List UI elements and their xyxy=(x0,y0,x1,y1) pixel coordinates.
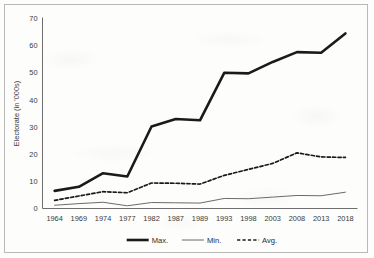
series-line-max xyxy=(55,33,346,190)
x-tick-label: 1989 xyxy=(192,214,208,223)
chart-series-group xyxy=(55,33,346,205)
chart-legend: Max.Min.Avg. xyxy=(127,236,277,245)
x-tick-label: 1998 xyxy=(240,214,256,223)
y-tick-label: 10 xyxy=(29,177,37,186)
series-line-min xyxy=(55,192,346,206)
x-tick-label: 1964 xyxy=(46,214,62,223)
y-axis: 010203040506070 xyxy=(29,14,42,213)
y-tick-label: 70 xyxy=(29,14,37,23)
legend-label-max[interactable]: Max. xyxy=(152,236,168,245)
chart-frame: 010203040506070 196419691974197719821987… xyxy=(4,4,368,253)
x-tick-label: 1982 xyxy=(143,214,159,223)
x-tick-label: 1977 xyxy=(119,214,135,223)
x-tick-label: 2008 xyxy=(289,214,305,223)
x-tick-label: 1969 xyxy=(71,214,87,223)
y-tick-label: 0 xyxy=(33,204,37,213)
x-axis: 1964196919741977198219871989199319982003… xyxy=(43,209,358,223)
y-axis-title-text: Electorate (in '000s) xyxy=(12,81,21,147)
x-tick-label: 2003 xyxy=(264,214,280,223)
y-tick-label: 20 xyxy=(29,150,37,159)
x-tick-label: 2013 xyxy=(313,214,329,223)
y-tick-label: 40 xyxy=(29,96,37,105)
y-axis-title: Electorate (in '000s) xyxy=(12,81,21,147)
x-tick-label: 1993 xyxy=(216,214,232,223)
y-tick-label: 50 xyxy=(29,68,37,77)
x-tick-label: 1974 xyxy=(95,214,111,223)
x-tick-label: 1987 xyxy=(168,214,184,223)
legend-label-min[interactable]: Min. xyxy=(207,236,221,245)
legend-label-avg[interactable]: Avg. xyxy=(262,236,277,245)
x-tick-label: 2018 xyxy=(337,214,353,223)
y-tick-label: 30 xyxy=(29,123,37,132)
y-tick-label: 60 xyxy=(29,41,37,50)
line-chart: 010203040506070 196419691974197719821987… xyxy=(5,5,369,254)
